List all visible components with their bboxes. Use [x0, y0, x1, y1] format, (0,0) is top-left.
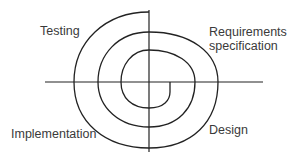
label-requirements-line2: specification: [209, 39, 287, 53]
spiral-model-diagram: Testing Requirements specification Desig…: [0, 0, 292, 157]
label-requirements-line1: Requirements: [209, 25, 287, 39]
label-testing: Testing: [40, 24, 80, 38]
label-requirements-specification: Requirements specification: [209, 25, 287, 53]
label-implementation: Implementation: [11, 127, 96, 141]
label-design: Design: [209, 123, 248, 137]
